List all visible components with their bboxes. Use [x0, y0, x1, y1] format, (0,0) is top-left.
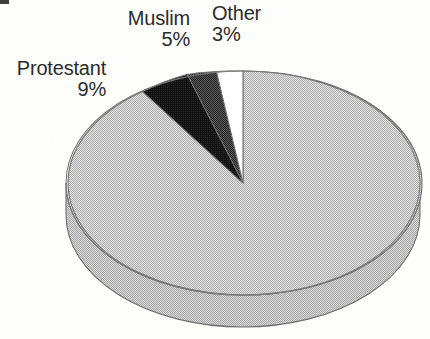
slice-label-muslim: Muslim 5% — [112, 8, 190, 50]
slice-label-muslim-name: Muslim — [128, 7, 190, 29]
slice-label-protestant-percent: 9% — [8, 79, 106, 100]
slice-label-other-name: Other — [212, 2, 261, 24]
pie-chart-figure: Protestant 9% Muslim 5% Other 3% — [0, 0, 430, 339]
slice-label-protestant: Protestant 9% — [8, 58, 106, 100]
slice-label-muslim-percent: 5% — [112, 29, 190, 50]
slice-label-other: Other 3% — [212, 3, 282, 45]
slice-label-other-percent: 3% — [212, 24, 282, 45]
slice-label-protestant-name: Protestant — [17, 57, 106, 79]
pie-chart-graphic — [0, 0, 430, 339]
